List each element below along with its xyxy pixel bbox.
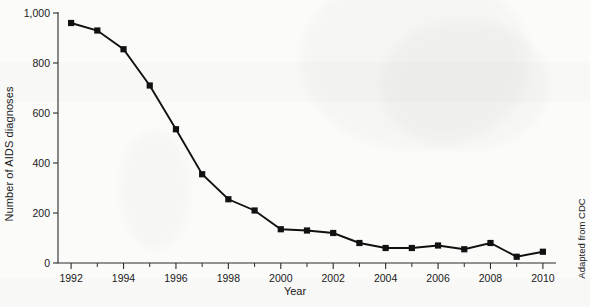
x-axis-tick-label: 1992 (59, 272, 83, 284)
data-point-marker (173, 126, 179, 132)
y-axis-tick-label: 400 (32, 157, 50, 169)
data-point-marker (487, 240, 493, 246)
x-axis-tick-label: 2008 (479, 272, 503, 284)
x-axis-tick-label: 2006 (426, 272, 450, 284)
data-point-marker (383, 245, 389, 251)
data-point-marker (251, 207, 257, 213)
data-series-line (71, 23, 543, 257)
x-axis-tick-label: 2010 (531, 272, 555, 284)
data-point-marker (278, 226, 284, 232)
x-axis-tick-label: 1996 (164, 272, 188, 284)
data-point-marker (304, 227, 310, 233)
x-axis-tick-label: 2004 (374, 272, 398, 284)
x-axis-title: Year (0, 285, 590, 297)
data-point-marker (356, 240, 362, 246)
x-axis-tick-label: 1998 (217, 272, 241, 284)
data-point-marker (330, 230, 336, 236)
y-axis-tick-label: 800 (32, 57, 50, 69)
chart-plot-area: 02004006008001,0001992199419961998200020… (0, 0, 590, 307)
y-axis-tick-label: 200 (32, 207, 50, 219)
y-axis-tick-label: 0 (44, 257, 50, 269)
data-point-marker (120, 46, 126, 52)
aids-diagnoses-line-chart: 02004006008001,0001992199419961998200020… (0, 0, 590, 307)
data-point-marker (147, 82, 153, 88)
x-axis-title-text: Year (284, 285, 306, 297)
source-credit-text: Adapted from CDC (576, 198, 587, 278)
data-point-marker (409, 245, 415, 251)
data-point-marker (68, 20, 74, 26)
chart-axes (58, 12, 556, 263)
data-point-marker (435, 242, 441, 248)
y-axis-tick-label: 600 (32, 107, 50, 119)
data-point-marker (514, 254, 520, 260)
data-point-marker (94, 27, 100, 33)
y-axis-title-text: Number of AIDS diagnoses (3, 86, 15, 221)
x-axis-tick-label: 2000 (269, 272, 293, 284)
x-axis-tick-label: 1994 (112, 272, 136, 284)
data-point-marker (461, 246, 467, 252)
source-credit: Adapted from CDC (573, 176, 589, 300)
data-point-marker (199, 171, 205, 177)
y-axis-tick-label: 1,000 (24, 7, 50, 19)
data-point-marker (540, 249, 546, 255)
x-axis-tick-label: 2002 (322, 272, 346, 284)
y-axis-title: Number of AIDS diagnoses (0, 0, 20, 307)
data-point-marker (225, 196, 231, 202)
